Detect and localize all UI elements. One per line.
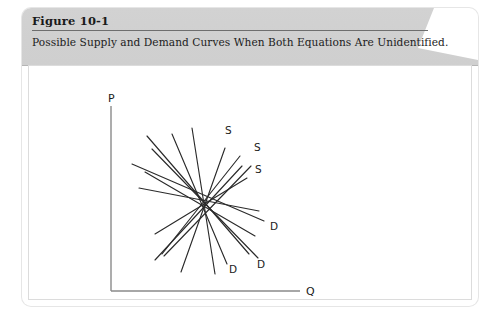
figure-header-text: Figure 10-1 Possible Supply and Demand C… (32, 14, 468, 49)
curve-line (181, 148, 225, 272)
curve-label-supply-1: S (225, 124, 232, 136)
figure-caption: Possible Supply and Demand Curves When B… (32, 35, 468, 49)
curve-label-demand-1: D (270, 220, 278, 232)
curve-line (164, 166, 251, 256)
curve-line (147, 136, 249, 254)
curve-label-supply-2: S (254, 141, 261, 153)
figure-card: Figure 10-1 Possible Supply and Demand C… (22, 8, 478, 306)
curve-label-demand-2: D (257, 258, 265, 270)
curve-label-demand-3: D (229, 263, 237, 275)
supply-demand-chart: PQ SSSDDD (29, 66, 473, 301)
chart-curves-group (132, 128, 264, 274)
plot-panel: PQ SSSDDD (28, 65, 472, 300)
y-axis-label: P (108, 92, 115, 105)
axis-labels-group: PQ (108, 92, 315, 298)
figure-header-divider (32, 30, 428, 31)
curve-labels-group: SSSDDD (225, 124, 278, 275)
curve-label-supply-3: S (255, 163, 262, 175)
x-axis-label: Q (306, 285, 315, 298)
figure-number-label: Figure 10-1 (32, 14, 468, 28)
